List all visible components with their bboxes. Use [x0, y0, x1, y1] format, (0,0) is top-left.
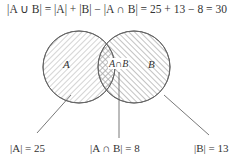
- pointer-a: [37, 95, 71, 133]
- callout-a: |A| = 25: [10, 142, 45, 154]
- pointer-b: [164, 95, 209, 135]
- venn-diagram: [0, 0, 234, 160]
- intersection-label: A∩B: [108, 58, 129, 69]
- callout-intersection: |A ∩ B| = 8: [90, 142, 140, 154]
- set-b-label: B: [148, 58, 155, 70]
- set-a-label: A: [63, 58, 70, 70]
- callout-b: |B| = 13: [194, 142, 228, 154]
